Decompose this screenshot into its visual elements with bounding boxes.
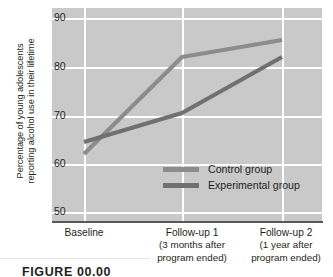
legend-item-experimental-group: Experimental group bbox=[163, 177, 300, 193]
x-label-followup-1-sub1: (3 months after bbox=[142, 239, 242, 251]
legend-item-control-group: Control group bbox=[163, 161, 300, 177]
legend: Control group Experimental group bbox=[163, 161, 300, 193]
y-tick-label-90: 90 bbox=[54, 11, 66, 23]
y-tick-label-50: 50 bbox=[54, 205, 66, 217]
y-axis-title-line-2: reporting alcohol use in their lifetime bbox=[26, 39, 36, 184]
figure-container: Percentage of young adolescents reportin… bbox=[0, 0, 333, 277]
series-line-experimental-group bbox=[84, 57, 282, 142]
x-label-followup-1-title: Follow-up 1 bbox=[142, 227, 242, 239]
legend-label-experimental-group: Experimental group bbox=[208, 179, 300, 191]
x-label-baseline: Baseline bbox=[44, 227, 124, 239]
figure-caption: FIGURE 00.00 bbox=[22, 265, 111, 277]
x-axis-line bbox=[52, 221, 323, 223]
x-label-baseline-title: Baseline bbox=[44, 227, 124, 239]
y-tick-label-80: 80 bbox=[54, 60, 66, 72]
legend-swatch-control-group bbox=[163, 167, 199, 172]
y-tick-label-60: 60 bbox=[54, 157, 66, 169]
y-tick-label-70: 70 bbox=[54, 109, 66, 121]
x-label-followup-1-sub2: program ended) bbox=[142, 252, 242, 264]
x-label-followup-2-title: Follow-up 2 bbox=[238, 227, 333, 239]
y-axis-title: Percentage of young adolescents reportin… bbox=[0, 0, 52, 222]
caption-divider bbox=[0, 258, 150, 259]
x-label-followup-2-sub1: (1 year after bbox=[238, 239, 333, 251]
legend-swatch-experimental-group bbox=[163, 183, 199, 188]
series-line-control-group bbox=[84, 40, 282, 154]
legend-label-control-group: Control group bbox=[208, 163, 272, 175]
x-label-followup-2: Follow-up 2 (1 year after program ended) bbox=[238, 227, 333, 264]
x-label-followup-1: Follow-up 1 (3 months after program ende… bbox=[142, 227, 242, 264]
y-axis-title-line-1: Percentage of young adolescents bbox=[15, 44, 25, 179]
x-label-followup-2-sub2: program ended) bbox=[238, 252, 333, 264]
